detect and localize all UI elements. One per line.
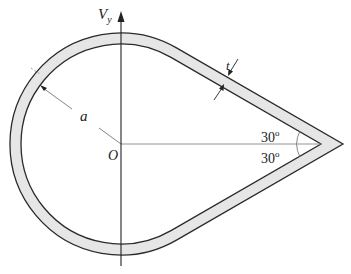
vy-arrowhead-icon [118, 11, 125, 22]
radius-label: a [80, 108, 88, 124]
teardrop-section-diagram: Vy a O t 30o 30o [0, 0, 351, 274]
origin-label: O [108, 148, 118, 163]
thickness-label: t [226, 58, 230, 73]
vy-axis-label: Vy [98, 6, 112, 25]
